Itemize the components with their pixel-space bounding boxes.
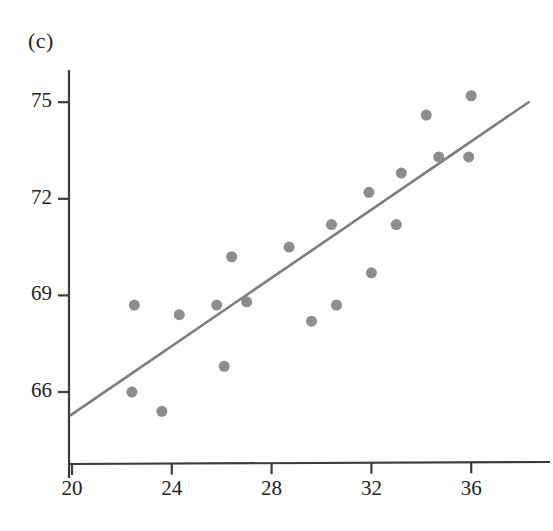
x-axis-tick-label: 36 [446, 476, 496, 501]
data-point [363, 187, 374, 198]
x-axis-tick-label: 20 [47, 476, 97, 501]
data-point [396, 168, 407, 179]
data-points-group [126, 90, 476, 417]
data-point [129, 300, 140, 311]
y-axis-tick-label: 66 [6, 378, 52, 403]
data-point [226, 251, 237, 262]
data-point [306, 316, 317, 327]
scatter-plot-figure: (c) 666972752024283236 [0, 0, 553, 531]
plot-canvas [0, 0, 553, 531]
data-point [391, 219, 402, 230]
x-axis-tick-label: 28 [247, 476, 297, 501]
regression-line [71, 102, 529, 415]
data-point [421, 110, 432, 121]
data-point [174, 309, 185, 320]
data-point [463, 151, 474, 162]
data-point [433, 151, 444, 162]
x-axis-tick-label: 24 [147, 476, 197, 501]
trend-line [71, 102, 529, 415]
data-point [156, 406, 167, 417]
data-point [466, 90, 477, 101]
data-point [126, 387, 137, 398]
y-axis-tick-label: 72 [6, 185, 52, 210]
data-point [219, 361, 230, 372]
data-point [211, 300, 222, 311]
data-point [366, 267, 377, 278]
x-axis-tick-label: 32 [346, 476, 396, 501]
data-point [241, 296, 252, 307]
y-axis-tick-label: 69 [6, 281, 52, 306]
axes-group [58, 70, 550, 478]
data-point [284, 242, 295, 253]
y-axis-tick-label: 75 [6, 88, 52, 113]
x-axis-line [69, 462, 550, 464]
data-point [326, 219, 337, 230]
data-point [331, 300, 342, 311]
